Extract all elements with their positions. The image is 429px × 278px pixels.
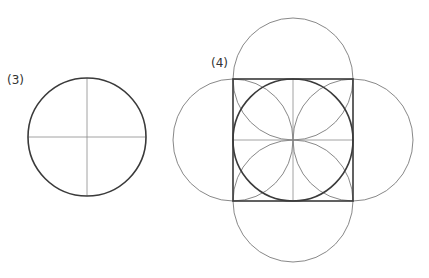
fig4-outer-right-semicircle xyxy=(353,79,413,201)
fig4-outer-top-semicircle xyxy=(233,18,353,79)
fig4-outer-left-semicircle xyxy=(173,79,233,201)
diagram-canvas xyxy=(0,0,429,278)
figure-3 xyxy=(28,78,146,196)
fig4-outer-bottom-semicircle xyxy=(233,201,353,262)
figure-4 xyxy=(173,18,413,262)
